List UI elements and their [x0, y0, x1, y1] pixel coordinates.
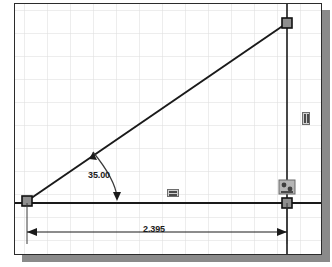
- angle-arrow-lower: [113, 192, 121, 201]
- length-arrow-right: [277, 228, 287, 236]
- sketch-canvas[interactable]: [14, 3, 322, 255]
- angle-dimension-label[interactable]: 35.00: [88, 170, 110, 180]
- length-dimension-label[interactable]: 2.395: [143, 224, 165, 234]
- vertical-constraint-icon[interactable]: [302, 112, 310, 125]
- geometry-layer: [15, 4, 321, 254]
- length-arrow-left: [27, 228, 37, 236]
- cad-sketch-screen: 35.00 2.395: [0, 0, 332, 267]
- coincident-constraint-icon[interactable]: [279, 180, 295, 194]
- top-right-vertex-marker[interactable]: [282, 18, 292, 28]
- horizontal-constraint-icon[interactable]: [167, 189, 179, 197]
- hypotenuse-edge[interactable]: [27, 23, 287, 201]
